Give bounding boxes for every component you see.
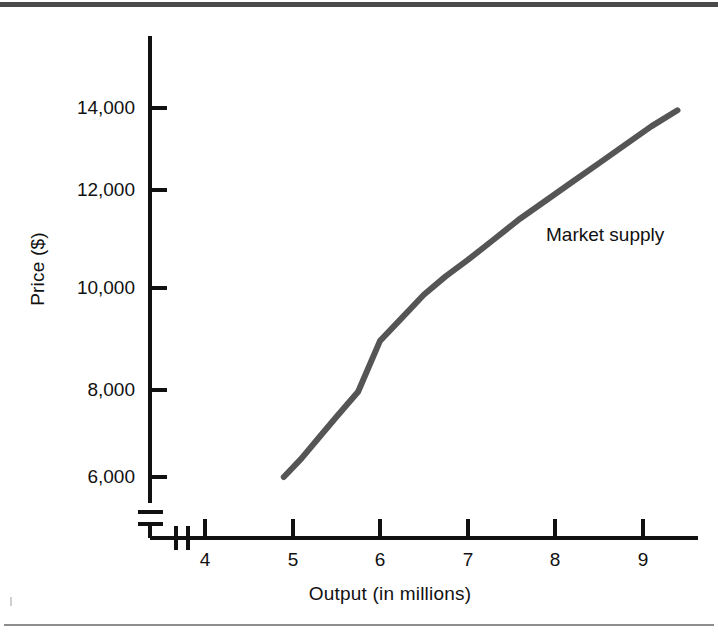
x-axis-group: [150, 519, 698, 550]
y-tick-label-10000: 10,000: [45, 277, 135, 299]
y-axis-group: [138, 36, 167, 538]
y-tick-label-8000: 8,000: [45, 379, 135, 401]
y-tick-label-12000: 12,000: [45, 179, 135, 201]
market-supply-annotation: Market supply: [546, 224, 664, 246]
market-supply-curve: [284, 110, 678, 477]
y-tick-label-14000: 14,000: [45, 97, 135, 119]
x-tick-label-6: 6: [360, 549, 400, 571]
y-tick-label-6000: 6,000: [45, 466, 135, 488]
y-axis-title: Price ($): [27, 209, 49, 329]
x-tick-label-8: 8: [535, 549, 575, 571]
x-tick-label-9: 9: [623, 549, 663, 571]
x-axis-title: Output (in millions): [240, 583, 540, 605]
x-tick-label-7: 7: [448, 549, 488, 571]
figure-container: 14,000 12,000 10,000 8,000 6,000 4 5 6 7…: [0, 0, 718, 641]
x-tick-label-4: 4: [185, 549, 225, 571]
x-tick-label-5: 5: [273, 549, 313, 571]
